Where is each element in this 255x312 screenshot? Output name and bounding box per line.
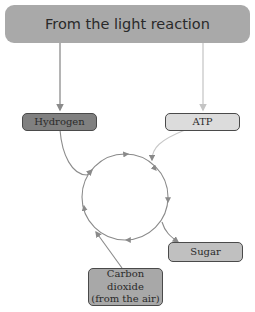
atp-to-cycle [152, 130, 185, 160]
hydrogen-label: Hydrogen [34, 116, 84, 129]
sugar-label: Sugar [190, 246, 220, 259]
atp-label: ATP [192, 116, 212, 129]
hydrogen-to-cycle [60, 130, 92, 175]
carbon-dioxide-source: (from the air) [91, 293, 159, 306]
banner-title: From the light reaction [45, 16, 210, 32]
diagram-connectors [0, 0, 255, 312]
cycle-to-sugar [162, 222, 178, 242]
sugar-node: Sugar [168, 242, 243, 262]
calvin-cycle-circle [82, 154, 168, 240]
carbon-dioxide-label: Carbon dioxide [89, 268, 162, 293]
light-reaction-banner: From the light reaction [5, 5, 250, 43]
carbon-dioxide-node: Carbon dioxide (from the air) [88, 268, 163, 306]
hydrogen-node: Hydrogen [22, 113, 97, 131]
atp-node: ATP [165, 113, 240, 131]
